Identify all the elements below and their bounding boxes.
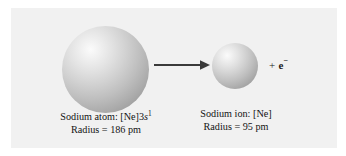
sodium-atom-caption: Sodium atom: [Ne]3s1 Radius = 186 pm <box>40 108 172 137</box>
sodium-ion-sphere <box>212 43 258 89</box>
sodium-ion-radius-line: Radius = 95 pm <box>176 121 296 134</box>
sodium-atom-config-prefix: Sodium atom: [Ne]3 <box>60 111 144 122</box>
sodium-ion-caption: Sodium ion: [Ne] Radius = 95 pm <box>176 108 296 133</box>
reaction-arrow-icon <box>154 58 210 72</box>
plus-sign: + <box>269 59 275 71</box>
sodium-atom-orbital-superscript: 1 <box>148 109 152 118</box>
arrow-right-icon <box>154 58 210 72</box>
sodium-atom-caption-line1: Sodium atom: [Ne]3s1 <box>40 108 172 124</box>
sodium-atom-sphere <box>62 26 149 113</box>
electron-symbol: e <box>278 59 283 71</box>
ionization-diagram: +e− Sodium atom: [Ne]3s1 Radius = 186 pm… <box>0 0 346 156</box>
sodium-atom-radius-line: Radius = 186 pm <box>40 124 172 137</box>
electron-term: +e− <box>269 57 288 71</box>
sodium-ion-caption-line1: Sodium ion: [Ne] <box>176 108 296 121</box>
electron-charge-superscript: − <box>284 56 289 65</box>
